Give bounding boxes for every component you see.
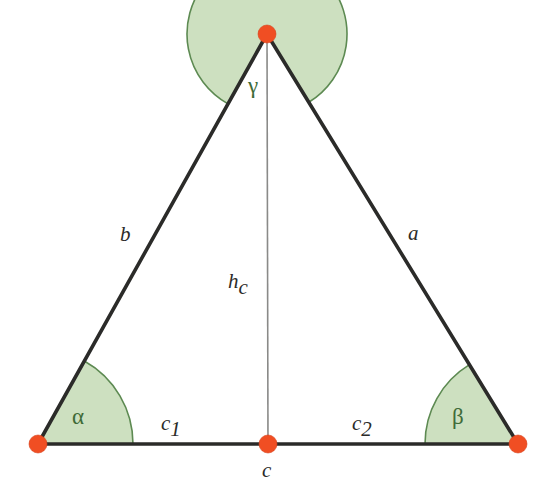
label-angle-gamma: γ <box>247 73 258 98</box>
label-side-a: a <box>408 221 419 245</box>
altitude-line-hc <box>267 34 268 444</box>
label-angle-beta: β <box>452 404 464 429</box>
label-altitude-hc: hc <box>228 269 249 299</box>
label-altitude-base: h <box>228 269 239 293</box>
label-base-c: c <box>262 458 272 482</box>
label-segment-c1-subscript: 1 <box>170 417 181 441</box>
label-segment-c2: c2 <box>352 411 372 441</box>
label-segment-c2-subscript: 2 <box>361 417 372 441</box>
label-side-b: b <box>120 222 131 246</box>
altitude-foot-dot <box>259 435 277 453</box>
bottom-right-vertex-dot <box>509 435 527 453</box>
label-angle-alpha: α <box>72 404 84 429</box>
angle-sector-beta <box>425 365 518 444</box>
bottom-left-vertex-dot <box>29 435 47 453</box>
label-altitude-subscript: c <box>239 275 249 299</box>
angle-sector-alpha <box>38 361 133 444</box>
triangle-diagram: b a hc c1 c2 c α β γ <box>0 0 553 494</box>
angle-sectors-group <box>38 0 518 444</box>
triangle-figure-svg: b a hc c1 c2 c α β γ <box>0 0 553 494</box>
triangle-side-b <box>38 34 267 444</box>
label-segment-c1: c1 <box>161 411 181 441</box>
apex-vertex-dot <box>258 25 276 43</box>
triangle-side-a <box>267 34 518 444</box>
